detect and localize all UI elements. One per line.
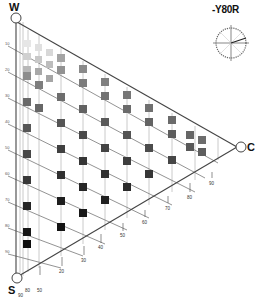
swatch xyxy=(23,72,31,80)
swatch xyxy=(57,93,65,101)
swatch xyxy=(23,150,31,158)
swatch xyxy=(101,144,109,152)
swatch xyxy=(35,56,42,63)
swatch xyxy=(23,40,31,47)
svg-text:50: 50 xyxy=(5,145,10,150)
swatch xyxy=(79,157,87,165)
svg-text:50: 50 xyxy=(37,288,43,293)
swatch xyxy=(46,49,53,56)
swatch xyxy=(79,209,87,217)
swatch xyxy=(79,131,87,139)
swatch xyxy=(186,131,194,139)
grid-diagonals xyxy=(8,46,218,268)
chromatic-vertex-label: C xyxy=(247,141,255,153)
swatch xyxy=(57,54,65,62)
bottom-left-labels: 90 80 50 xyxy=(18,288,43,298)
black-vertex-circle xyxy=(12,273,22,283)
swatch xyxy=(35,81,43,89)
swatch xyxy=(57,119,65,127)
swatch xyxy=(123,91,131,99)
swatch xyxy=(145,104,153,112)
swatch xyxy=(123,131,131,139)
swatch xyxy=(79,79,87,87)
swatch xyxy=(57,145,65,153)
swatch xyxy=(79,65,87,73)
svg-text:10: 10 xyxy=(5,41,10,46)
svg-text:30: 30 xyxy=(5,93,10,98)
swatch xyxy=(23,240,31,248)
swatch xyxy=(46,75,53,82)
svg-text:70: 70 xyxy=(5,197,10,202)
swatch xyxy=(57,223,65,231)
swatch xyxy=(79,105,87,113)
svg-text:40: 40 xyxy=(98,245,104,250)
swatch xyxy=(23,124,31,132)
swatch xyxy=(198,136,206,144)
swatch xyxy=(23,202,31,210)
swatch xyxy=(186,143,194,151)
swatch xyxy=(35,68,42,75)
triangle-svg: 90 80 70 60 50 40 30 20 90 80 50 10 20 3… xyxy=(0,0,256,303)
svg-text:80: 80 xyxy=(187,195,193,200)
swatch xyxy=(46,61,53,68)
white-vertex-circle xyxy=(11,13,21,23)
ncs-color-triangle: 90 80 70 60 50 40 30 20 90 80 50 10 20 3… xyxy=(0,0,256,303)
swatch xyxy=(101,78,109,86)
swatch xyxy=(145,144,153,152)
swatch xyxy=(101,196,109,204)
swatch xyxy=(23,228,31,236)
swatch xyxy=(23,53,31,60)
swatch xyxy=(168,156,176,164)
swatch xyxy=(101,118,109,126)
swatch xyxy=(23,98,31,106)
svg-text:70: 70 xyxy=(165,206,171,211)
svg-text:50: 50 xyxy=(120,233,126,238)
svg-text:80: 80 xyxy=(5,223,10,228)
swatch xyxy=(57,197,65,205)
swatch xyxy=(168,116,176,124)
svg-text:90: 90 xyxy=(209,181,215,186)
swatch xyxy=(168,130,176,138)
hue-title: -Y80R xyxy=(212,4,239,15)
swatch xyxy=(79,183,87,191)
black-vertex-label: S xyxy=(8,284,15,296)
svg-text:40: 40 xyxy=(5,119,10,124)
svg-text:60: 60 xyxy=(5,171,10,176)
svg-text:20: 20 xyxy=(59,269,65,274)
swatch xyxy=(145,118,153,126)
svg-text:80: 80 xyxy=(25,288,31,293)
swatch xyxy=(35,104,43,112)
svg-text:90: 90 xyxy=(18,293,24,298)
svg-text:60: 60 xyxy=(142,220,148,225)
swatch xyxy=(57,171,65,179)
swatch xyxy=(198,148,206,156)
white-vertex-label: W xyxy=(9,1,19,13)
chromaticness-labels: 90 80 70 60 50 40 30 20 xyxy=(59,181,215,274)
swatch xyxy=(23,176,31,184)
svg-text:30: 30 xyxy=(81,258,87,263)
swatches xyxy=(23,40,206,248)
swatch xyxy=(123,157,131,165)
swatch xyxy=(123,105,131,113)
swatch xyxy=(35,44,42,51)
swatch xyxy=(23,66,31,73)
swatch xyxy=(101,170,109,178)
swatch xyxy=(57,66,65,74)
svg-text:90: 90 xyxy=(5,249,10,254)
svg-text:20: 20 xyxy=(5,67,10,72)
swatch xyxy=(145,170,153,178)
swatch xyxy=(123,183,131,191)
hue-circle-icon xyxy=(213,25,249,61)
swatch xyxy=(101,92,109,100)
chromatic-vertex-circle xyxy=(236,142,246,152)
